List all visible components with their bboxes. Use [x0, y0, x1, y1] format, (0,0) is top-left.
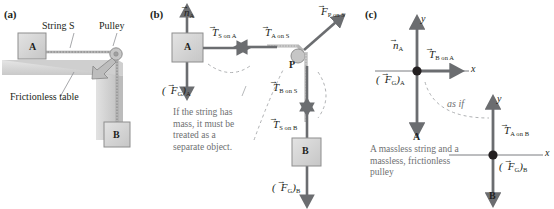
- vector-arrow-icon: →: [269, 76, 274, 86]
- panel-c-a-axis-x-label: x: [471, 64, 475, 75]
- vector-arrow-icon: →: [500, 119, 505, 129]
- label-gravity-b: (→FG)B: [272, 181, 300, 193]
- panel-c-b-axis-x-label: x: [545, 148, 549, 159]
- panel-b-block-b-label: B: [302, 145, 309, 156]
- string-mass-note: If the string has mass, it must be treat…: [173, 107, 265, 153]
- panel-a-block-a-label: A: [29, 41, 36, 52]
- massless-caption: A massless string and a massless, fricti…: [370, 144, 462, 179]
- panel-c-label-normal-force-a: →nA: [388, 39, 403, 51]
- vector-arrow-icon: →: [317, 0, 322, 10]
- vector-arrow-icon: →: [180, 1, 185, 11]
- vector-arrow-icon: →: [389, 34, 394, 44]
- panel-c-object-b-label: B: [489, 190, 496, 201]
- fbd-particle-b: [449, 100, 543, 194]
- note-leader: [242, 86, 246, 96]
- label-tension-a-on-s: →TA on S: [260, 26, 289, 38]
- panel-b-pulley-label: P: [289, 59, 295, 70]
- vector-arrow-icon: →: [269, 113, 274, 123]
- panel-c-label-tension-a-on-b: →TA on B: [499, 124, 529, 136]
- vector-arrow-icon: →: [425, 43, 430, 53]
- vector-arrow-icon: →: [167, 79, 172, 89]
- vector-arrow-icon: →: [381, 68, 386, 78]
- string-s-label: String S: [42, 21, 75, 32]
- physics-figure: (a): [0, 0, 554, 209]
- label-gravity-a: (→FG)A: [162, 84, 191, 96]
- vector-arrow-icon: →: [504, 155, 509, 165]
- vector-arrow-icon: →: [208, 21, 213, 31]
- label-tension-s-on-a: →TS on A: [207, 26, 236, 38]
- panel-b-graphics: [150, 0, 365, 209]
- label-normal-force-a: →nA: [179, 6, 194, 18]
- panel-b-block-a-label: A: [184, 41, 191, 52]
- label-tension-s-on-b: →TS on B: [268, 118, 297, 130]
- frictionless-table-label: Frictionless table: [10, 92, 79, 103]
- panel-a-graphics: [0, 0, 150, 209]
- vector-arrow-icon: →: [261, 21, 266, 31]
- panel-c-label-gravity-a: (→FG)A: [376, 73, 405, 85]
- panel-c-a-axis-y-label: y: [421, 14, 425, 25]
- panel-b: (b): [150, 0, 365, 209]
- panel-c-label-tension-b-on-a: →TB on A: [424, 48, 454, 60]
- panel-a: (a): [0, 0, 150, 209]
- panel-c: (c): [365, 0, 554, 209]
- as-if-label: as if: [447, 99, 464, 110]
- panel-c-label-gravity-b: (→FG)B: [499, 160, 527, 172]
- panel-c-b-axis-y-label: y: [497, 94, 501, 105]
- pulley-label: Pulley: [99, 21, 125, 32]
- label-tension-b-on-s: →TB on S: [268, 81, 297, 93]
- panel-c-object-a-label: A: [413, 131, 420, 142]
- vector-arrow-icon: →: [277, 176, 282, 186]
- panel-a-block-b-label: B: [113, 129, 120, 140]
- label-force-p-on-s: →FP on S: [316, 5, 345, 17]
